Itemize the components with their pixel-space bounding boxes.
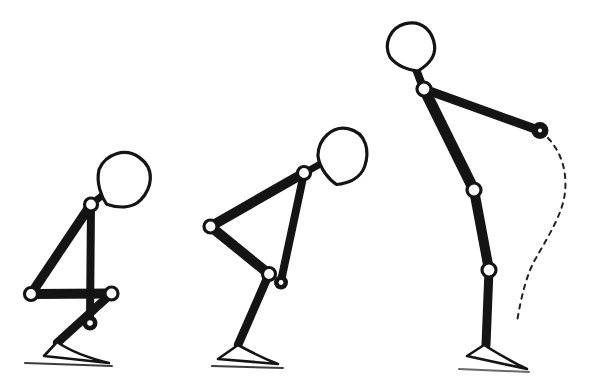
thigh-segment	[31, 294, 112, 295]
arm-segment	[90, 205, 91, 322]
ground-line	[212, 366, 283, 368]
shin-segment	[486, 270, 489, 345]
foot-outline	[218, 345, 278, 364]
thigh-segment	[211, 227, 270, 275]
hand-joint-center	[538, 129, 542, 133]
foot-outline	[44, 342, 109, 363]
hip-joint	[204, 220, 217, 233]
ground-line	[25, 363, 112, 366]
shoulder-joint	[417, 82, 431, 96]
stick-figure-deep-crouch	[25, 142, 161, 366]
ground-line	[459, 369, 529, 372]
thigh-segment	[474, 190, 489, 270]
hand-joint-center	[87, 320, 93, 326]
stick-figure-mid-rise	[204, 124, 372, 368]
knee-joint	[263, 268, 276, 281]
knee-joint	[105, 287, 118, 300]
torso-segment	[211, 173, 305, 227]
head-outline	[382, 18, 440, 77]
torso-segment	[31, 205, 91, 295]
stick-figure-drawing	[0, 0, 597, 392]
hip-joint	[25, 288, 38, 301]
shin-segment	[238, 274, 269, 345]
hand-joint-center	[279, 280, 284, 285]
stick-figure-upright-armswing	[382, 18, 548, 372]
shoulder-joint	[85, 198, 98, 211]
knee-joint	[482, 263, 496, 277]
foot-outline	[467, 345, 527, 369]
squat-jump-sequence-illustration	[0, 0, 597, 392]
head-outline	[312, 124, 372, 190]
shoulder-joint	[298, 167, 311, 180]
hand-swing-dashed-path	[517, 138, 565, 322]
hip-joint	[467, 183, 481, 197]
